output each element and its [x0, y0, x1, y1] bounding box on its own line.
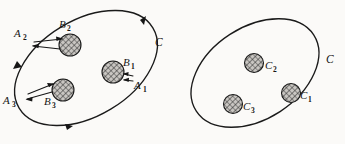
disk-B3-hatch-overlay — [52, 79, 74, 101]
figure-drawing: A 2 A 3 A 1 B 2 B 3 B 1 C — [0, 0, 345, 144]
label-A1: A — [133, 79, 141, 91]
disk-C3-hatch-overlay — [224, 95, 243, 114]
label-B2-subscript: 2 — [67, 24, 71, 33]
left-boundary-curve — [0, 0, 178, 144]
label-B1: B — [123, 56, 130, 68]
label-A1-subscript: 1 — [143, 85, 147, 94]
label-B2: B — [59, 18, 66, 30]
left-region-group: A 2 A 3 A 1 B 2 B 3 B 1 C — [0, 0, 178, 144]
vector-pair-A1-B1 — [123, 72, 133, 82]
vector-pair-A2-B2 — [32, 37, 63, 50]
label-C1-subscript: 1 — [308, 95, 312, 104]
label-A3-subscript: 3 — [12, 100, 16, 109]
disk-B1-hatch-overlay — [102, 61, 124, 83]
label-B1-subscript: 1 — [131, 62, 135, 71]
label-C3-subscript: 3 — [251, 106, 255, 115]
label-A2-subscript: 2 — [23, 33, 27, 42]
disk-C2-hatch-overlay — [245, 54, 264, 73]
right-region-group: C 2 C 3 C 1 C — [171, 0, 339, 144]
label-B3-subscript: 3 — [52, 101, 56, 110]
disk-B2-hatch-overlay — [59, 34, 81, 56]
label-C3: C — [243, 100, 251, 112]
label-C2: C — [265, 59, 273, 71]
label-A3: A — [2, 94, 10, 106]
label-B3: B — [44, 95, 51, 107]
figure-canvas: A 2 A 3 A 1 B 2 B 3 B 1 C — [0, 0, 345, 144]
label-C2-subscript: 2 — [273, 65, 277, 74]
disk-C1-hatch-overlay — [282, 84, 301, 103]
label-C1: C — [300, 89, 308, 101]
label-left-curve-C: C — [155, 36, 163, 48]
label-right-curve-C: C — [326, 53, 334, 65]
label-A2: A — [13, 27, 21, 39]
